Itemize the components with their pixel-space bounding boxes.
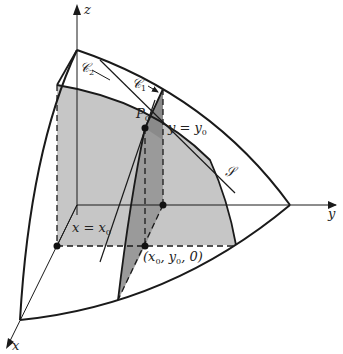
curve-c2-label: 𝒞2 <box>80 60 94 77</box>
edge-top-left <box>57 50 77 85</box>
y-axis-label: y <box>327 206 336 221</box>
point-p0 <box>142 125 149 132</box>
x-axis-label: x <box>12 338 20 353</box>
arrow-c1 <box>148 86 158 92</box>
z-axis-label: z <box>83 2 91 17</box>
point-x0-base <box>54 243 61 250</box>
surface-s-label: 𝒮 <box>225 164 239 179</box>
plane-y-y0-label: y = y0 <box>167 120 207 137</box>
point-y0-axis <box>160 202 167 209</box>
arrow-c2 <box>92 70 110 80</box>
base-point-label: (x0, y0, 0) <box>143 249 203 266</box>
surface-diagram: z y x 𝒞2 𝒞1 P0 𝒮 y = y0 x = x0 (x0, y0, … <box>0 0 343 354</box>
point-p0-label: P0 <box>135 106 150 123</box>
plane-x-x0-label: x = x0 <box>72 220 111 237</box>
